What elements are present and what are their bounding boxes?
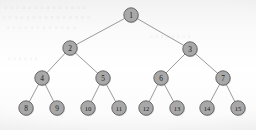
tree-node-15[interactable]: 15 bbox=[231, 101, 246, 116]
tree-node-label: 14 bbox=[204, 105, 211, 112]
tree-node-label: 8 bbox=[24, 104, 28, 113]
tree-node-label: 11 bbox=[116, 105, 122, 112]
tree-node-14[interactable]: 14 bbox=[200, 101, 215, 116]
tree-node-7[interactable]: 7 bbox=[216, 71, 231, 86]
tree-node-9[interactable]: 9 bbox=[50, 101, 65, 116]
tree-node-1[interactable]: 1 bbox=[124, 8, 139, 23]
tree-edge-4-9 bbox=[45, 84, 54, 102]
tree-edge-5-10 bbox=[91, 84, 100, 102]
tree-edge-group bbox=[29, 18, 235, 102]
tree-node-11[interactable]: 11 bbox=[112, 101, 127, 116]
tree-edge-6-12 bbox=[149, 84, 158, 102]
tree-edge-7-15 bbox=[226, 84, 235, 102]
tree-edge-1-2 bbox=[76, 18, 125, 45]
tree-node-6[interactable]: 6 bbox=[154, 71, 169, 86]
tree-node-label: 15 bbox=[235, 105, 242, 112]
tree-node-13[interactable]: 13 bbox=[170, 101, 185, 116]
tree-edge-1-3 bbox=[137, 18, 184, 45]
tree-edge-7-14 bbox=[210, 84, 220, 102]
tree-edge-3-7 bbox=[195, 53, 218, 73]
tree-node-label: 6 bbox=[159, 74, 163, 83]
tree-edge-2-4 bbox=[47, 53, 66, 73]
tree-node-8[interactable]: 8 bbox=[19, 101, 34, 116]
tree-node-12[interactable]: 12 bbox=[139, 101, 154, 116]
tree-node-10[interactable]: 10 bbox=[81, 101, 96, 116]
tree-node-label: 13 bbox=[174, 105, 181, 112]
tree-node-label: 5 bbox=[101, 74, 105, 83]
tree-edge-4-8 bbox=[29, 84, 39, 102]
tree-node-label: 7 bbox=[221, 74, 225, 83]
tree-node-label: 3 bbox=[188, 45, 192, 54]
tree-node-label: 2 bbox=[68, 44, 72, 53]
tree-edge-2-5 bbox=[75, 53, 98, 74]
tree-node-5[interactable]: 5 bbox=[96, 71, 111, 86]
tree-node-label: 9 bbox=[55, 104, 59, 113]
tree-node-4[interactable]: 4 bbox=[35, 71, 50, 86]
tree-edge-6-13 bbox=[164, 84, 174, 102]
tree-edge-3-6 bbox=[166, 54, 186, 74]
tree-node-3[interactable]: 3 bbox=[183, 42, 198, 57]
binary-tree-diagram: 123456789101112131415 bbox=[0, 0, 256, 130]
tree-node-label: 10 bbox=[85, 105, 92, 112]
tree-node-label: 12 bbox=[143, 105, 150, 112]
tree-node-label: 1 bbox=[129, 11, 133, 20]
tree-edge-5-11 bbox=[106, 84, 116, 102]
scanned-figure-page: a a a a a a a a a a a a a aa a a a a a a… bbox=[0, 0, 256, 130]
tree-node-label: 4 bbox=[40, 74, 44, 83]
